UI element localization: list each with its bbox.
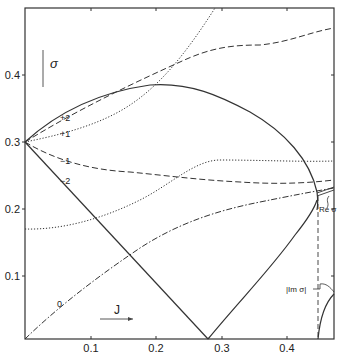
curve-plus1-dashed — [25, 28, 334, 142]
y-tick-0.1: 0.1 — [5, 270, 20, 282]
x-tick-0.4: 0.4 — [279, 342, 294, 354]
curve-plus2-solid — [25, 85, 318, 210]
x-tick-0.3: 0.3 — [214, 342, 229, 354]
label-minus1: −1 — [60, 156, 70, 166]
label-plus1: +1 — [60, 129, 70, 139]
y-tick-0.3: 0.3 — [5, 136, 20, 148]
x-tick-0.1: 0.1 — [83, 342, 98, 354]
curve-re-sigma — [317, 187, 334, 196]
label-plus2: +2 — [60, 113, 70, 123]
chart: 0.1 0.2 0.3 0.4 0.1 0.2 0.3 0.4 σ J — [0, 0, 341, 356]
x-tick-labels: 0.1 0.2 0.3 0.4 — [83, 342, 294, 354]
im-sigma-leader — [313, 284, 334, 292]
curve-im-sigma — [318, 294, 334, 339]
y-tick-0.2: 0.2 — [5, 203, 20, 215]
j-label: J — [114, 303, 120, 317]
label-minus2: −2 — [60, 176, 70, 186]
sigma-label: σ — [50, 56, 59, 71]
curve-closing-branch — [208, 200, 317, 339]
j-arrow-head — [128, 317, 133, 321]
curve-labels: +2 +1 −1 −2 0 Re σ |Im σ| — [57, 113, 336, 309]
y-tick-0.4: 0.4 — [5, 69, 20, 81]
curve-lower-dotted — [25, 160, 334, 229]
curve-zero-dashdot — [25, 188, 334, 339]
x-tick-0.2: 0.2 — [148, 342, 163, 354]
label-zero: 0 — [57, 299, 62, 309]
y-tick-labels: 0.1 0.2 0.3 0.4 — [5, 69, 20, 282]
curve-plus1-dotted — [25, 8, 215, 142]
label-im-sigma: |Im σ| — [286, 285, 306, 294]
curve-minus1-dashed — [25, 142, 334, 183]
label-re-sigma: Re σ — [319, 205, 336, 214]
